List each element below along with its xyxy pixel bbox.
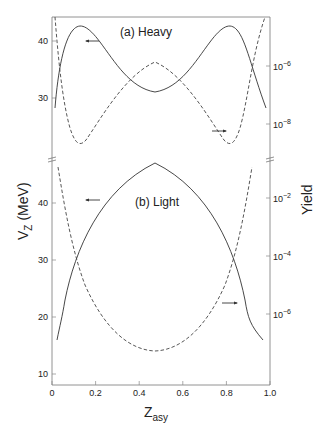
panel-a-curves: (a) Heavy xyxy=(55,17,266,144)
right-tick-label: 10−6 xyxy=(273,60,291,72)
right-tick-label: 10−4 xyxy=(273,250,291,262)
left-axis-ticks-bottom: 10 20 30 40 xyxy=(38,198,56,379)
figure: 0 0.2 0.4 0.6 0.8 1.0 30 40 10 20 30 40 … xyxy=(0,0,321,424)
left-axis-title: VZ(MeV) xyxy=(15,182,34,240)
panel-b-curves: (b) Light xyxy=(57,163,263,351)
left-tick-label: 30 xyxy=(38,255,48,265)
left-tick-label: 20 xyxy=(38,312,48,322)
x-tick-label: 0.8 xyxy=(220,388,233,398)
left-tick-label: 30 xyxy=(38,93,48,103)
right-tick-label: 10−6 xyxy=(273,308,291,320)
right-tick-label: 10−2 xyxy=(273,192,291,204)
left-tick-label: 40 xyxy=(38,36,48,46)
left-tick-label: 10 xyxy=(38,369,48,379)
x-axis-ticks: 0 0.2 0.4 0.6 0.8 1.0 xyxy=(49,381,276,398)
x-tick-label: 0.6 xyxy=(177,388,190,398)
right-axis-title: Yield xyxy=(299,184,315,215)
left-axis-ticks-top: 30 40 xyxy=(38,36,56,103)
x-tick-label: 1.0 xyxy=(264,388,277,398)
panel-b-label: (b) Light xyxy=(135,195,180,209)
x-tick-label: 0.2 xyxy=(89,388,102,398)
light-vz-curve xyxy=(57,163,263,340)
x-axis-title: Zasy xyxy=(144,404,168,423)
right-tick-label: 10−8 xyxy=(273,118,291,130)
left-tick-label: 40 xyxy=(38,198,48,208)
panel-a-label: (a) Heavy xyxy=(120,25,172,39)
x-tick-label: 0.4 xyxy=(133,388,146,398)
x-tick-label: 0 xyxy=(49,388,54,398)
